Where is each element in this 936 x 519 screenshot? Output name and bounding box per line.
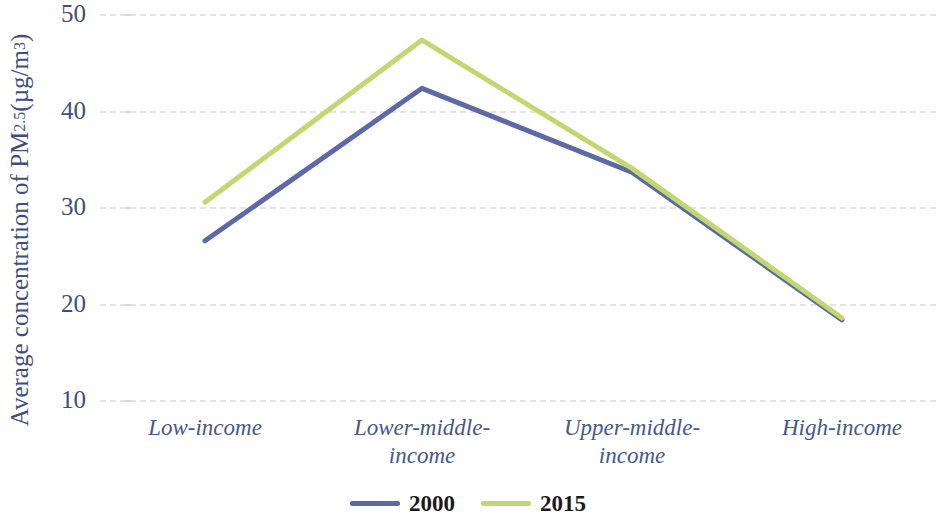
y-axis-title-subscript: 2.5 (11, 112, 29, 132)
x-axis-category-label: Low-income (95, 414, 315, 442)
x-axis-category-label-line: Lower-middle- (312, 414, 532, 442)
x-axis-category-label-line: income (522, 442, 742, 470)
x-axis-category-label-line: Low-income (95, 414, 315, 442)
series-line-2000 (205, 88, 842, 320)
chart-legend: 20002015 (0, 488, 936, 519)
y-axis-tick-labels: 5040302010 (34, 0, 86, 420)
legend-line-swatch (481, 501, 531, 506)
series-lines (100, 0, 936, 410)
legend-entry-2000[interactable]: 2000 (350, 492, 455, 515)
legend-label: 2000 (409, 492, 455, 515)
legend-line-swatch (350, 501, 400, 506)
x-axis-category-label-line: Upper-middle- (522, 414, 742, 442)
legend-label: 2015 (540, 492, 586, 515)
y-axis-tick-label: 50 (34, 1, 86, 26)
y-axis-title-prefix: Average concentration of PM (6, 132, 34, 427)
x-axis-category-label-line: income (312, 442, 532, 470)
plot-area (100, 0, 936, 410)
y-axis-title-unit-close: ) (6, 34, 34, 42)
x-axis-category-label: Lower-middle-income (312, 414, 532, 470)
y-axis-tick-label: 30 (34, 194, 86, 219)
legend-entry-2015[interactable]: 2015 (481, 492, 586, 515)
y-axis-title-superscript: 3 (11, 42, 29, 50)
x-axis-category-label: High-income (732, 414, 936, 442)
y-axis-title-unit-open: (µg/m (6, 50, 34, 112)
series-line-2015 (205, 40, 842, 318)
pm25-line-chart: Average concentration of PM2.5 (µg/m3) 5… (0, 0, 936, 519)
y-axis-tick-label: 40 (34, 98, 86, 123)
y-axis-tick-label: 10 (34, 387, 86, 412)
x-axis-category-label: Upper-middle-income (522, 414, 742, 470)
y-axis-tick-label: 20 (34, 291, 86, 316)
x-axis-category-labels: Low-incomeLower-middle-incomeUpper-middl… (100, 414, 936, 480)
x-axis-category-label-line: High-income (732, 414, 936, 442)
